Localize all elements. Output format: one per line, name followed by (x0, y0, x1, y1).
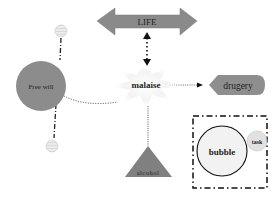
drugery-node[interactable]: drugery (209, 75, 265, 95)
bubble-label: bubble (209, 147, 236, 157)
task-node[interactable]: task (247, 131, 267, 151)
life-node[interactable]: LIFE (97, 8, 197, 35)
malaise-label: malaise (132, 80, 161, 90)
malaise-node[interactable]: malaise (110, 62, 182, 110)
connector-life-malaise (143, 32, 151, 66)
diagram-canvas: LIFE Free will malaise drugery alcohol b… (0, 0, 280, 198)
bubble-node[interactable]: bubble (197, 126, 247, 176)
free-will-node[interactable]: Free will (16, 61, 66, 111)
alcohol-node[interactable]: alcohol (125, 146, 172, 177)
connector-freewill-bottom (54, 104, 56, 138)
drugery-label: drugery (223, 81, 253, 91)
small-circle-bottom[interactable] (46, 140, 58, 152)
free-will-label: Free will (28, 83, 53, 91)
alcohol-label: alcohol (137, 169, 160, 176)
task-label: task (252, 139, 263, 145)
connector-freewill-top (60, 38, 61, 60)
connector-freewill-malaise (64, 96, 118, 104)
small-circle-top[interactable] (55, 25, 67, 37)
life-label: LIFE (138, 17, 158, 27)
arrowhead-right-icon (197, 83, 203, 88)
arrowhead-up-icon (143, 32, 151, 39)
